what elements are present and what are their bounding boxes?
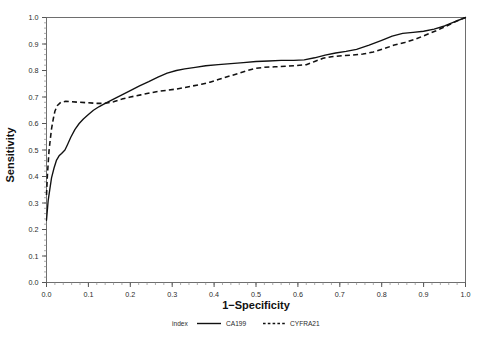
x-tick-label-2: 0.2 bbox=[125, 290, 135, 299]
x-tick-label-9: 0.9 bbox=[419, 290, 429, 299]
series-curve-ca199 bbox=[47, 18, 466, 221]
legend-label-ca199: CA199 bbox=[226, 320, 246, 327]
roc-curve-figure: 0.00.10.20.30.40.50.60.70.80.91.0 0.00.1… bbox=[0, 0, 481, 339]
x-axis-title: 1−Specificity bbox=[222, 299, 290, 311]
x-axis-major-ticks bbox=[47, 283, 466, 288]
y-tick-label-3: 0.3 bbox=[29, 199, 39, 208]
roc-plot-svg: 0.00.10.20.30.40.50.60.70.80.91.0 0.00.1… bbox=[0, 0, 481, 339]
y-tick-label-5: 0.5 bbox=[29, 146, 39, 155]
x-tick-label-10: 1.0 bbox=[461, 290, 471, 299]
y-tick-label-9: 0.9 bbox=[29, 40, 39, 49]
y-tick-label-6: 0.6 bbox=[29, 119, 39, 128]
x-tick-label-3: 0.3 bbox=[167, 290, 177, 299]
y-tick-label-8: 0.8 bbox=[29, 66, 39, 75]
y-tick-label-2: 0.2 bbox=[29, 225, 39, 234]
y-axis-major-ticks bbox=[42, 18, 47, 283]
x-tick-label-5: 0.5 bbox=[251, 290, 261, 299]
chart-legend: index CA199 CYFRA21 bbox=[172, 320, 320, 327]
x-tick-label-8: 0.8 bbox=[377, 290, 387, 299]
y-axis-tick-labels: 0.00.10.20.30.40.50.60.70.80.91.0 bbox=[29, 13, 39, 287]
x-tick-label-0: 0.0 bbox=[42, 290, 52, 299]
x-tick-label-7: 0.7 bbox=[335, 290, 345, 299]
y-axis-title: Sensitivity bbox=[4, 127, 16, 183]
x-tick-label-1: 0.1 bbox=[83, 290, 93, 299]
series-curve-cyfra21 bbox=[47, 18, 466, 196]
x-tick-label-6: 0.6 bbox=[293, 290, 303, 299]
data-series-group bbox=[47, 18, 466, 221]
y-tick-label-4: 0.4 bbox=[29, 172, 39, 181]
y-tick-label-10: 1.0 bbox=[29, 13, 39, 22]
y-tick-label-7: 0.7 bbox=[29, 93, 39, 102]
y-tick-label-1: 0.1 bbox=[29, 252, 39, 261]
legend-label-cyfra21: CYFRA21 bbox=[290, 320, 320, 327]
y-tick-label-0: 0.0 bbox=[29, 278, 39, 287]
x-axis-tick-labels: 0.00.10.20.30.40.50.60.70.80.91.0 bbox=[42, 290, 471, 299]
legend-title: index bbox=[172, 320, 188, 327]
x-tick-label-4: 0.4 bbox=[209, 290, 219, 299]
plot-area-frame bbox=[47, 18, 466, 283]
